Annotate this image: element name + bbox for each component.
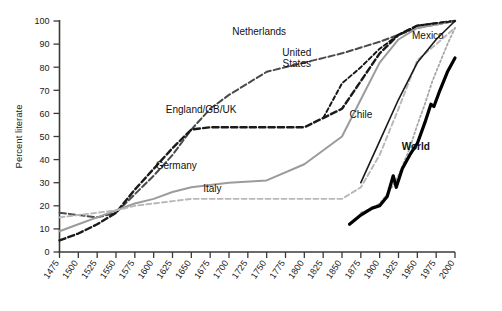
x-tick-label: 1475: [41, 258, 61, 280]
y-axis-title: Percent literate: [13, 105, 24, 169]
x-tick-label: 1575: [117, 258, 137, 280]
series-label-world: World: [402, 141, 430, 152]
x-tick-label: 1775: [267, 258, 287, 280]
y-tick-label: 30: [39, 178, 49, 188]
series-line-mexico: [361, 28, 455, 213]
x-tick-label: 1850: [324, 258, 344, 280]
y-tick-label: 70: [39, 86, 49, 96]
series-line-italy: [60, 28, 456, 217]
x-tick-label: 1500: [60, 258, 80, 280]
series-label-england-gb-uk: England/GB/UK: [166, 104, 237, 115]
series-line-england-gb-uk: [60, 21, 456, 240]
x-tick-label: 1925: [380, 258, 400, 280]
series-label-line-2: States: [283, 58, 311, 69]
x-tick-label: 1750: [249, 258, 269, 280]
series-label-mexico: Mexico: [412, 30, 444, 41]
x-tick-label: 1700: [211, 258, 231, 280]
series-label-germany: Germany: [156, 160, 197, 171]
series-label-netherlands: Netherlands: [232, 26, 286, 37]
series-label-united-states: UnitedStates: [282, 47, 311, 69]
tick-marks-group: [54, 21, 456, 258]
x-tick-label: 1625: [154, 258, 174, 280]
x-tick-label: 1900: [362, 258, 382, 280]
x-tick-label: 1675: [192, 258, 212, 280]
x-tick-label: 1950: [399, 258, 419, 280]
x-tick-label: 1800: [286, 258, 306, 280]
x-tick-label: 1650: [173, 258, 193, 280]
y-tick-label: 60: [39, 109, 49, 119]
y-tick-label: 80: [39, 63, 49, 73]
y-axis-title-group: Percent literate: [13, 105, 24, 169]
x-tick-label: 1525: [79, 258, 99, 280]
series-label-line-1: United: [282, 47, 311, 58]
x-tick-labels-group: 1475150015251550157516001625165016751700…: [41, 258, 456, 280]
x-tick-label: 1600: [136, 258, 156, 280]
series-lines-group: [60, 21, 456, 240]
y-tick-label: 40: [39, 155, 49, 165]
x-tick-label: 1875: [343, 258, 363, 280]
series-label-chile: Chile: [349, 109, 372, 120]
y-tick-label: 50: [39, 132, 49, 142]
y-tick-labels-group: 0102030405060708090100: [34, 16, 49, 257]
x-tick-label: 1725: [230, 258, 250, 280]
series-label-italy: Italy: [203, 183, 221, 194]
x-tick-label: 1550: [98, 258, 118, 280]
x-tick-label: 1825: [305, 258, 325, 280]
y-tick-label: 10: [39, 224, 49, 234]
y-tick-label: 0: [44, 247, 49, 257]
axes-group: [59, 20, 456, 252]
x-tick-label: 1975: [418, 258, 438, 280]
y-tick-label: 20: [39, 201, 49, 211]
x-tick-label: 2000: [437, 258, 457, 280]
y-tick-label: 90: [39, 39, 49, 49]
y-tick-label: 100: [34, 16, 49, 26]
literacy-line-chart: 1475150015251550157516001625165016751700…: [0, 0, 502, 311]
chart-canvas: 1475150015251550157516001625165016751700…: [0, 0, 502, 311]
